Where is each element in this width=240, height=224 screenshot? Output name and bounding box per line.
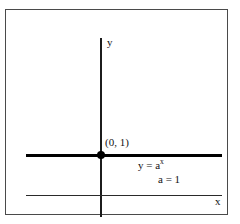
y-axis-label: y — [107, 37, 113, 48]
equation-label: y = ax — [138, 160, 164, 171]
exponential-function-figure: y x (0, 1) y = ax a = 1 — [0, 0, 240, 224]
y-axis-line — [100, 38, 102, 217]
y-intercept-point-marker — [97, 151, 105, 159]
function-curve-y-equals-a-power-x — [26, 154, 222, 157]
figure-border: y x (0, 1) y = ax a = 1 — [5, 9, 228, 215]
x-axis-line — [26, 195, 222, 196]
equation-exponent-text: x — [160, 157, 164, 166]
equation-base-text: y = a — [138, 159, 160, 171]
parameter-value-label: a = 1 — [158, 174, 180, 185]
y-intercept-coordinate-label: (0, 1) — [105, 137, 129, 148]
x-axis-label: x — [215, 196, 221, 207]
